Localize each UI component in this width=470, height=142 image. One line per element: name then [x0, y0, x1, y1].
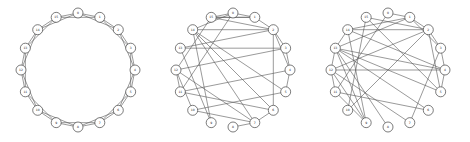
graph-node: 12 [16, 65, 26, 75]
node-label: 10 [191, 108, 195, 112]
node-label: 7 [409, 121, 411, 125]
node-label: 7 [99, 121, 101, 125]
graph-node: 15 [51, 12, 61, 22]
node-label: 3 [285, 46, 287, 50]
graph-edge [176, 48, 286, 70]
graph-edge [335, 13, 388, 92]
node-label: 13 [23, 46, 27, 50]
node-label: 6 [272, 108, 274, 112]
graph-node: 0 [73, 8, 83, 18]
node-label: 3 [440, 46, 442, 50]
graph-edge [331, 70, 410, 123]
graph-node: 8 [383, 122, 393, 132]
node-label: 2 [427, 28, 429, 32]
node-label: 11 [23, 90, 27, 94]
graph-node: 5 [436, 87, 446, 97]
graph-node: 5 [281, 87, 291, 97]
graph-node: 15 [206, 12, 216, 22]
node-label: 15 [54, 15, 58, 19]
graph-node: 11 [175, 87, 185, 97]
node-label: 9 [210, 121, 212, 125]
graph-node: 1 [95, 12, 105, 22]
graph-node: 6 [113, 105, 123, 115]
node-label: 15 [364, 15, 368, 19]
node-label: 4 [134, 68, 136, 72]
node-label: 2 [117, 28, 119, 32]
graph-node: 14 [343, 25, 353, 35]
graph-edge [348, 30, 445, 70]
graph-node: 5 [126, 87, 136, 97]
graph-edge [180, 13, 233, 92]
graph-node: 2 [268, 25, 278, 35]
node-label: 11 [333, 90, 337, 94]
node-label: 10 [346, 108, 350, 112]
graph-panel-rewired-high: 0123456789101112131415 [310, 0, 470, 142]
figure: 0123456789101112131415 01234567891011121… [0, 0, 470, 142]
graph-node: 13 [175, 43, 185, 53]
graph-edge [348, 17, 410, 29]
graph-node: 7 [95, 118, 105, 128]
graph-node: 11 [330, 87, 340, 97]
node-label: 12 [329, 68, 333, 72]
graph-node: 8 [228, 122, 238, 132]
graph-node: 13 [20, 43, 30, 53]
node-label: 7 [254, 121, 256, 125]
node-label: 8 [387, 125, 389, 129]
graph-node: 15 [361, 12, 371, 22]
node-label: 13 [178, 46, 182, 50]
graph-node: 4 [285, 65, 295, 75]
node-label: 15 [209, 15, 213, 19]
node-label: 1 [254, 15, 256, 19]
graph-node: 8 [73, 122, 83, 132]
graph-edge [335, 48, 388, 127]
node-label: 2 [272, 28, 274, 32]
graph-edge [193, 30, 286, 92]
node-label: 14 [191, 28, 195, 32]
graph-node: 14 [188, 25, 198, 35]
node-label: 14 [36, 28, 40, 32]
node-label: 4 [444, 68, 446, 72]
graph-node: 6 [423, 105, 433, 115]
graph-node: 12 [171, 65, 181, 75]
graph-panel-rewired-low: 0123456789101112131415 [155, 0, 311, 142]
graph-node: 1 [405, 12, 415, 22]
node-label: 11 [178, 90, 182, 94]
node-label: 14 [346, 28, 350, 32]
graph-node: 10 [343, 105, 353, 115]
graph-node: 2 [423, 25, 433, 35]
graph-edge [193, 30, 274, 111]
node-label: 9 [55, 121, 57, 125]
graph-node: 3 [126, 43, 136, 53]
graph-node: 9 [51, 118, 61, 128]
node-label: 0 [232, 11, 234, 15]
node-label: 8 [77, 125, 79, 129]
node-label: 13 [333, 46, 337, 50]
graph-node: 0 [383, 8, 393, 18]
graph-node: 14 [33, 25, 43, 35]
graph-node: 7 [250, 118, 260, 128]
node-label: 3 [130, 46, 132, 50]
node-label: 10 [36, 108, 40, 112]
graph-panel-ring-lattice: 0123456789101112131415 [0, 0, 156, 142]
node-label: 12 [174, 68, 178, 72]
graph-node: 1 [250, 12, 260, 22]
node-label: 6 [117, 108, 119, 112]
graph-node: 7 [405, 118, 415, 128]
node-label: 9 [365, 121, 367, 125]
graph-node: 3 [281, 43, 291, 53]
graph-node: 2 [113, 25, 123, 35]
node-label: 1 [99, 15, 101, 19]
graph-node: 11 [20, 87, 30, 97]
graph-node: 10 [188, 105, 198, 115]
graph-node: 0 [228, 8, 238, 18]
node-label: 1 [409, 15, 411, 19]
node-label: 5 [440, 90, 442, 94]
node-label: 5 [285, 90, 287, 94]
graph-node: 6 [268, 105, 278, 115]
graph-node: 4 [130, 65, 140, 75]
graph-node: 9 [361, 118, 371, 128]
graph-node: 10 [33, 105, 43, 115]
node-label: 0 [387, 11, 389, 15]
graph-node: 4 [440, 65, 450, 75]
node-label: 4 [289, 68, 291, 72]
